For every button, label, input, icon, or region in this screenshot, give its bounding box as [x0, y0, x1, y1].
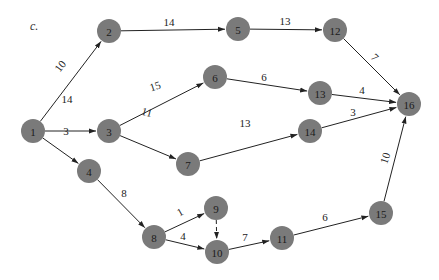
node-label: 3: [106, 126, 112, 138]
node-label: 2: [106, 26, 112, 38]
nodes-group: 12345678910111213141516: [21, 17, 421, 264]
node-label: 1: [30, 126, 36, 138]
node-label: 11: [277, 233, 288, 245]
node-7: 7: [176, 152, 200, 176]
node-1: 1: [21, 119, 45, 143]
edge-1-2: [40, 41, 101, 121]
edge-weight-label: 13: [280, 15, 292, 27]
edge-5-12: [250, 29, 322, 30]
diagram-svg: c. 10143141315116137438147610 1234567891…: [0, 0, 439, 280]
node-2: 2: [97, 19, 121, 43]
edge-1-4: [43, 138, 79, 163]
edge-14-16: [322, 107, 397, 127]
node-label: 9: [213, 203, 219, 215]
node-label: 7: [185, 159, 191, 171]
node-11: 11: [270, 226, 294, 250]
edge-weight-label: 3: [350, 106, 356, 118]
edge-weight-label: 14: [62, 93, 74, 105]
node-3: 3: [97, 119, 121, 143]
edge-12-16: [343, 38, 399, 94]
edge-weight-label: 15: [148, 78, 163, 93]
node-12: 12: [323, 18, 347, 42]
node-label: 13: [315, 88, 327, 100]
node-label: 15: [376, 208, 388, 220]
edge-weight-label: 7: [369, 51, 382, 64]
edge-10-11: [229, 241, 270, 250]
node-label: 5: [235, 24, 241, 36]
node-13: 13: [308, 81, 332, 105]
edge-11-15: [294, 216, 369, 235]
node-label: 14: [305, 126, 317, 138]
node-14: 14: [298, 119, 322, 143]
node-16: 16: [397, 92, 421, 116]
node-label: 8: [151, 232, 157, 244]
node-label: 12: [330, 25, 341, 37]
edge-weight-label: 11: [140, 105, 153, 119]
edge-weight-label: 13: [240, 117, 252, 129]
edge-weight-label: 1: [175, 205, 186, 218]
network-diagram: c. 10143141315116137438147610 1234567891…: [0, 0, 439, 280]
node-6: 6: [203, 65, 227, 89]
node-10: 10: [205, 240, 229, 264]
edge-weight-label: 8: [121, 187, 127, 199]
edge-3-7: [120, 136, 176, 159]
edge-weight-label: 4: [180, 230, 186, 242]
edge-weight-label: 6: [261, 71, 267, 83]
edge-weight-label: 10: [378, 150, 393, 165]
node-label: 10: [212, 247, 224, 259]
node-9: 9: [204, 196, 228, 220]
node-label: 16: [404, 99, 416, 111]
edge-weight-label: 14: [164, 16, 176, 28]
edge-weight-label: 10: [52, 58, 69, 74]
node-label: 4: [86, 166, 92, 178]
edge-weight-label: 7: [242, 231, 248, 243]
edge-6-13: [227, 79, 307, 91]
edge-weight-label: 4: [359, 84, 365, 96]
node-15: 15: [369, 201, 393, 225]
node-label: 6: [212, 72, 218, 84]
node-5: 5: [226, 17, 250, 41]
node-8: 8: [142, 225, 166, 249]
edge-weight-label: 3: [63, 125, 69, 137]
edge-weight-label: 6: [322, 211, 328, 223]
edge-2-5: [121, 29, 225, 31]
figure-label: c.: [30, 19, 38, 33]
edge-7-14: [200, 134, 298, 160]
node-4: 4: [77, 159, 101, 183]
